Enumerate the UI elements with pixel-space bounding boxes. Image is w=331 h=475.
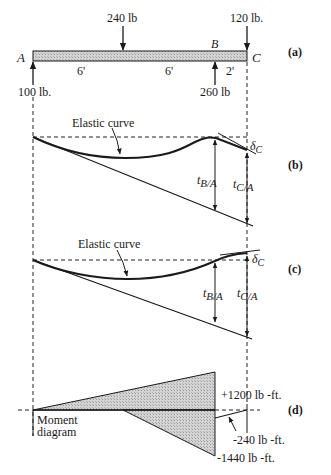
moment-title-line2: diagram [37, 425, 77, 439]
negative-moment-area [123, 410, 215, 456]
point-label-C: C [252, 50, 261, 65]
panel-label-a: (a) [288, 45, 302, 59]
point-label-A: A [16, 50, 25, 65]
panel-label-d: (d) [288, 403, 303, 417]
moment-neg-small-label: -240 lb -ft. [233, 433, 285, 447]
span-label-3: 2' [226, 64, 234, 78]
load-label-240: 240 lb [107, 11, 137, 25]
reaction-label-A: 100 lb. [18, 85, 51, 99]
reaction-label-B: 260 lb [200, 85, 230, 99]
span-label-2: 6' [165, 64, 173, 78]
beam-panel: 240 lb 120 lb. 100 lb. 260 lb A B C 6' 6… [16, 11, 302, 99]
deltaC-label: δC [252, 252, 265, 268]
point-label-B: B [211, 37, 219, 51]
beam [33, 51, 247, 61]
positive-moment-area [33, 372, 215, 410]
deltaC-label: δC [250, 139, 263, 155]
elastic-curve-label: Elastic curve [78, 237, 140, 251]
panel-label-c: (c) [288, 262, 301, 276]
panel-label-b: (b) [288, 158, 303, 172]
elastic-curve-label: Elastic curve [72, 116, 134, 130]
curve-leader [117, 250, 127, 276]
span-label-1: 6' [77, 64, 85, 78]
deflection-panel-c: Elastic curve tB/A tC/A δC (c) [33, 237, 301, 339]
deflection-panel-b: Elastic curve tB/A tC/A δC (b) [33, 116, 303, 226]
load-label-120: 120 lb. [230, 11, 263, 25]
neg-small-leader [229, 417, 236, 431]
tCA-label: tC/A [233, 177, 254, 193]
moment-pos-label: +1200 lb -ft. [221, 388, 281, 402]
tBA-label: tB/A [203, 286, 223, 302]
beam-deflection-figure: 240 lb 120 lb. 100 lb. 260 lb A B C 6' 6… [0, 0, 331, 475]
moment-neg-large-label: -1440 lb -ft. [217, 451, 275, 465]
tBA-label: tB/A [197, 173, 217, 189]
overhang-moment-area [215, 410, 247, 418]
curve-leader [112, 128, 120, 154]
moment-diagram-panel: Moment diagram +1200 lb -ft. -240 lb -ft… [18, 372, 303, 465]
